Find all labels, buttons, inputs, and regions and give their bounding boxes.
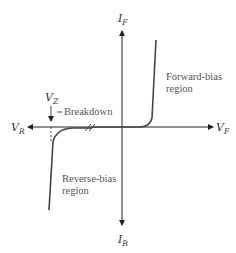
label-reverse-bias-region: Reverse-bias region: [62, 173, 119, 196]
label-forward-bias-region: Forward-bias region: [166, 71, 225, 94]
diode-characteristic-diagram: IF IR VF VR VZ Breakdown Forward-bias re…: [0, 0, 236, 253]
label-ir: IR: [117, 233, 128, 248]
label-if: IF: [117, 12, 128, 27]
label-vz: VZ: [45, 91, 59, 106]
label-vr: VR: [11, 121, 25, 136]
label-vf: VF: [216, 121, 230, 136]
label-breakdown: Breakdown: [64, 106, 113, 117]
reverse-bias-curve: [49, 128, 92, 210]
